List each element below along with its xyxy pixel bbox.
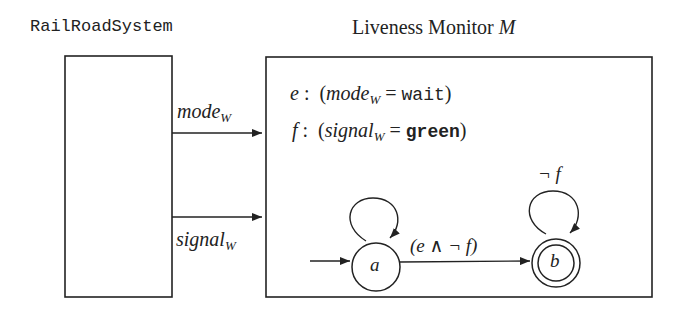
state-a-label: a bbox=[370, 254, 380, 276]
transition-a-b-label: (e ∧ ¬ f) bbox=[410, 234, 477, 257]
monitor-title: Liveness Monitor M bbox=[352, 16, 515, 39]
signal-signal-label: signalW bbox=[176, 228, 236, 254]
self-loop-b-label: ¬ f bbox=[538, 163, 561, 185]
system-box bbox=[65, 56, 172, 297]
diagram-canvas bbox=[0, 0, 683, 315]
transition-a-b bbox=[400, 261, 530, 262]
monitor-symbol: M bbox=[499, 16, 516, 38]
def-e: e : (modeW = wait) bbox=[290, 82, 451, 108]
self-loop-a bbox=[350, 198, 398, 241]
def-f: f : (signalW = green) bbox=[292, 119, 467, 145]
self-loop-b bbox=[529, 191, 578, 234]
system-title: RailRoadSystem bbox=[30, 17, 173, 36]
state-b-label: b bbox=[550, 250, 560, 272]
mode-signal-label: modeW bbox=[177, 100, 231, 126]
